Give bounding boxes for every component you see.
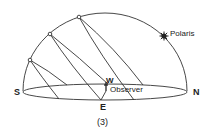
figure-caption: (3) bbox=[97, 117, 108, 127]
sun-position-low bbox=[28, 58, 32, 62]
label-east: E bbox=[100, 102, 106, 112]
label-south: S bbox=[14, 87, 20, 97]
label-north: N bbox=[193, 87, 200, 97]
east-pointer bbox=[101, 91, 106, 100]
sun-path-mid bbox=[50, 34, 108, 100]
polaris-star-icon bbox=[160, 32, 169, 41]
label-west: W bbox=[106, 76, 114, 85]
sun-path-low bbox=[30, 60, 67, 99]
label-polaris: Polaris bbox=[170, 29, 194, 38]
label-observer: Observer bbox=[110, 85, 143, 94]
celestial-sphere-diagram: S N E W Observer Polaris (3) bbox=[0, 0, 209, 139]
sun-position-high bbox=[77, 15, 81, 19]
celestial-dome bbox=[23, 13, 187, 91]
sun-position-mid bbox=[48, 32, 52, 36]
